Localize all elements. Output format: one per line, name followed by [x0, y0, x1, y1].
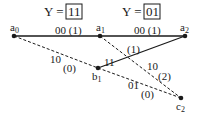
edge-a0-b1-code: 10: [50, 53, 62, 65]
edge-a1-c2-code: 10: [147, 60, 159, 72]
header-2-prefix: Y =: [122, 4, 142, 19]
edge-b1-a2-code: 11: [104, 56, 115, 68]
node-a0-label: a0: [10, 21, 19, 35]
header-1-value: 11: [68, 4, 81, 19]
header-y-1: Y = 11: [44, 4, 82, 19]
edge-b1-a2-metric: (1): [127, 43, 140, 56]
edge-a0-a1-label: 00 (1): [55, 24, 82, 37]
header-2-value: 01: [146, 4, 159, 19]
node-a2-label: a2: [180, 21, 189, 35]
header-y-2: Y = 01: [122, 4, 160, 19]
edge-b1-c2-metric: (0): [141, 88, 154, 101]
header-1-prefix: Y =: [44, 4, 64, 19]
node-b1-label: b1: [92, 70, 102, 84]
edge-a1-a2-label: 00 (1): [134, 24, 161, 37]
node-a1-label: a1: [96, 21, 105, 35]
edge-b1-c2-code: 01: [128, 79, 139, 91]
node-c2-label: c2: [176, 100, 185, 114]
edge-a1-c2-metric: (2): [158, 70, 171, 83]
trellis-diagram: Y = 11 Y = 01 00 (1) 00 (1) 10 (0) 11 (1…: [0, 0, 198, 118]
edge-a0-b1-metric: (0): [63, 62, 76, 75]
